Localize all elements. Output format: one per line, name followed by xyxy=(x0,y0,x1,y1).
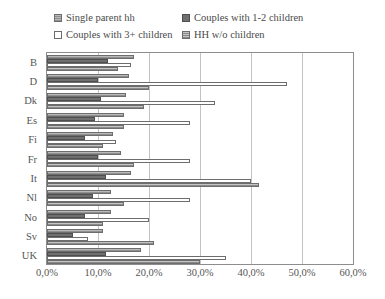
x-axis-tick-label: 40,0% xyxy=(237,267,264,279)
bar xyxy=(47,144,103,148)
legend-label: Single parent hh xyxy=(66,12,135,23)
legend-swatch-icon xyxy=(182,31,190,39)
x-axis-tick-label: 50,0% xyxy=(288,267,315,279)
y-axis-tick-label: D xyxy=(29,76,37,87)
bar-group xyxy=(47,53,353,72)
legend-swatch-icon xyxy=(54,31,62,39)
bar-group xyxy=(47,111,353,130)
y-axis-tick-label: No xyxy=(24,211,37,222)
bar xyxy=(47,105,144,109)
bar-chart: Single parent hh Couples with 1-2 childr… xyxy=(0,0,385,299)
chart-legend: Single parent hh Couples with 1-2 childr… xyxy=(54,9,344,45)
y-axis-tick-label: Nl xyxy=(27,192,38,203)
bar xyxy=(47,222,103,226)
y-axis-tick-label: Es xyxy=(27,114,38,125)
bar-group xyxy=(47,189,353,208)
bar-group xyxy=(47,72,353,91)
x-axis-tick-label: 20,0% xyxy=(135,267,162,279)
y-axis-labels: BDDkEsFiFrItNlNoSvUK xyxy=(0,52,42,265)
y-axis-tick-label: Sv xyxy=(26,230,37,241)
bar-group xyxy=(47,208,353,227)
legend-item-couples-1-2-children: Couples with 1-2 children xyxy=(182,9,342,26)
bar-group xyxy=(47,227,353,246)
y-axis-tick-label: It xyxy=(31,172,37,183)
x-axis-labels: 0,0%10,0%20,0%30,0%40,0%50,0%60,0% xyxy=(0,267,385,283)
plot-area xyxy=(46,52,354,265)
bar xyxy=(47,125,124,129)
bar-group xyxy=(47,247,353,265)
y-axis-tick-label: Dk xyxy=(24,95,37,106)
bar-group xyxy=(47,169,353,188)
x-axis-tick-label: 60,0% xyxy=(339,267,366,279)
bar xyxy=(47,183,259,187)
bar xyxy=(47,67,118,71)
y-axis-tick-label: B xyxy=(30,56,37,67)
y-axis-tick-label: Fi xyxy=(28,134,37,145)
legend-item-couples-3plus-children: Couples with 3+ children xyxy=(54,26,182,43)
legend-item-hh-wo-children: HH w/o children xyxy=(182,26,342,43)
legend-row-2: Couples with 3+ children HH w/o children xyxy=(54,26,344,43)
y-axis-tick-label: Fr xyxy=(28,153,37,164)
bar xyxy=(47,86,149,90)
bar-group xyxy=(47,130,353,149)
x-axis-tick-label: 10,0% xyxy=(84,267,111,279)
legend-item-single-parent-hh: Single parent hh xyxy=(54,9,182,26)
bar xyxy=(47,241,154,245)
legend-label: Couples with 3+ children xyxy=(66,29,173,40)
legend-row-1: Single parent hh Couples with 1-2 childr… xyxy=(54,9,344,26)
bar-group xyxy=(47,150,353,169)
x-axis-tick-label: 30,0% xyxy=(186,267,213,279)
bar xyxy=(47,260,200,264)
bar xyxy=(47,202,124,206)
legend-swatch-icon xyxy=(182,14,190,22)
bar-group xyxy=(47,92,353,111)
legend-label: Couples with 1-2 children xyxy=(194,12,303,23)
bar xyxy=(47,163,134,167)
y-axis-tick-label: UK xyxy=(22,250,37,261)
legend-label: HH w/o children xyxy=(194,29,265,40)
x-axis-tick-label: 0,0% xyxy=(36,267,58,279)
legend-swatch-icon xyxy=(54,14,62,22)
